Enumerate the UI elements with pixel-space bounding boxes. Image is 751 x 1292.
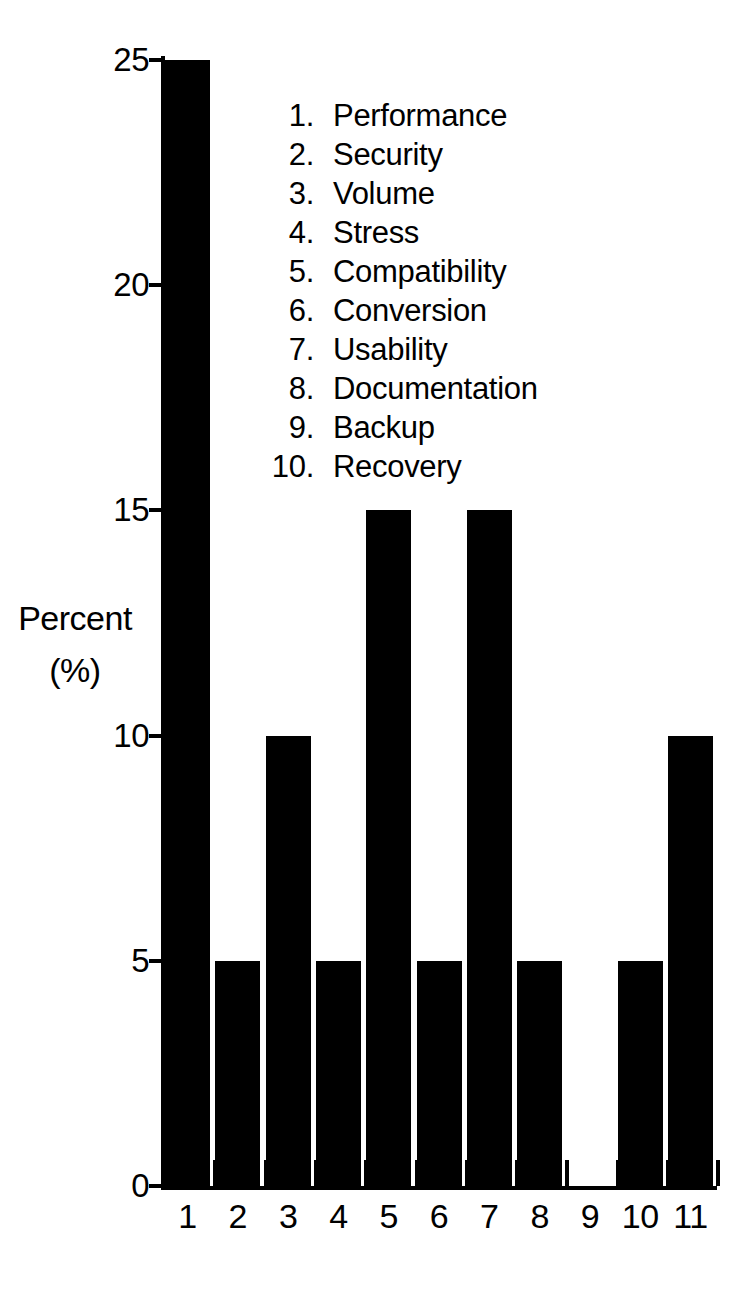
legend-item: 2.Security: [252, 135, 538, 174]
y-axis-tick-label: 5: [131, 944, 149, 977]
y-axis-tick-label: 10: [113, 719, 149, 752]
y-axis-tick-label: 0: [131, 1169, 149, 1202]
bar-2: [215, 961, 260, 1186]
legend-item: 6.Conversion: [252, 291, 538, 330]
legend-item-label: Recovery: [333, 447, 462, 486]
x-axis-tick: [666, 1160, 670, 1186]
y-axis-tick-25: [149, 58, 162, 62]
bar-7: [467, 510, 512, 1186]
y-axis-title-line-2: (%): [0, 644, 150, 696]
legend-item-label: Documentation: [333, 369, 538, 408]
legend-item-number: 6.: [252, 291, 314, 330]
bar-8: [517, 961, 562, 1186]
legend-item-label: Security: [333, 135, 443, 174]
y-axis-tick-label: 15: [113, 493, 149, 526]
legend-item-number: 7.: [252, 330, 314, 369]
x-axis-tick: [565, 1160, 569, 1186]
x-axis-tick: [213, 1160, 217, 1186]
legend-item-number: 1.: [252, 96, 314, 135]
bar-11: [668, 736, 713, 1186]
x-axis-tick: [163, 1160, 167, 1186]
y-axis-title: Percent (%): [0, 592, 150, 696]
y-axis-tick-0: [149, 1184, 162, 1188]
legend-item-number: 9.: [252, 408, 314, 447]
legend-item-label: Stress: [333, 213, 419, 252]
legend-item-label: Volume: [333, 174, 435, 213]
legend-item-number: 5.: [252, 252, 314, 291]
legend-item-number: 2.: [252, 135, 314, 174]
x-axis-tick: [264, 1160, 268, 1186]
legend-item-label: Usability: [333, 330, 447, 369]
x-axis-line: [161, 1186, 717, 1190]
legend-item: 7.Usability: [252, 330, 538, 369]
bar-4: [316, 961, 361, 1186]
legend-item-number: 10.: [252, 447, 314, 486]
y-axis-tick-label: 20: [113, 268, 149, 301]
legend-item: 4.Stress: [252, 213, 538, 252]
legend-item-number: 3.: [252, 174, 314, 213]
y-axis-tick-15: [149, 508, 162, 512]
legend-item: 1.Performance: [252, 96, 538, 135]
y-axis-tick-20: [149, 283, 162, 287]
y-axis-tick-10: [149, 734, 162, 738]
x-axis-tick: [314, 1160, 318, 1186]
y-axis-title-line-1: Percent: [0, 592, 150, 644]
legend-item-label: Compatibility: [333, 252, 507, 291]
x-axis-tick-label-11: 11: [661, 1198, 721, 1234]
x-axis-tick: [364, 1160, 368, 1186]
legend: 1.Performance2.Security3.Volume4.Stress5…: [252, 96, 538, 486]
legend-item: 9.Backup: [252, 408, 538, 447]
bar-10: [618, 961, 663, 1186]
bar-chart: 0510152025 1234567891011 Percent (%) 1.P…: [0, 0, 751, 1292]
x-axis-tick: [465, 1160, 469, 1186]
x-axis-tick: [415, 1160, 419, 1186]
legend-item-number: 8.: [252, 369, 314, 408]
legend-item: 8.Documentation: [252, 369, 538, 408]
bar-6: [417, 961, 462, 1186]
legend-item-label: Performance: [333, 96, 507, 135]
y-axis-tick-5: [149, 959, 162, 963]
y-axis-tick-label: 25: [113, 43, 149, 76]
legend-item: 10.Recovery: [252, 447, 538, 486]
legend-item: 3.Volume: [252, 174, 538, 213]
legend-item-number: 4.: [252, 213, 314, 252]
x-axis-tick: [616, 1160, 620, 1186]
bar-5: [366, 510, 411, 1186]
x-axis-tick: [515, 1160, 519, 1186]
bar-3: [266, 736, 311, 1186]
legend-item-label: Conversion: [333, 291, 487, 330]
x-axis-tick: [716, 1160, 720, 1186]
bar-1: [165, 60, 210, 1186]
legend-item: 5.Compatibility: [252, 252, 538, 291]
legend-item-label: Backup: [333, 408, 435, 447]
